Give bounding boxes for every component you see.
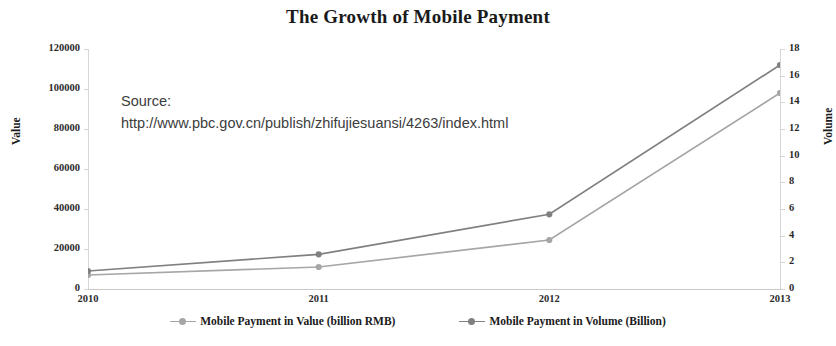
y-tick-mark-right xyxy=(781,182,785,183)
y-tick-mark-right xyxy=(781,156,785,157)
y-tick-label-right: 2 xyxy=(789,255,813,266)
y-tick-label-right: 10 xyxy=(789,149,813,160)
legend-label: Mobile Payment in Value (billion RMB) xyxy=(200,315,395,327)
y-tick-mark-right xyxy=(781,262,785,263)
y-axis-title-right: Volume xyxy=(822,108,834,145)
data-point-marker xyxy=(316,264,322,270)
y-tick-mark-left xyxy=(84,49,88,50)
y-tick-label-right: 0 xyxy=(789,282,813,293)
series-line xyxy=(88,93,780,275)
x-tick-label: 2013 xyxy=(735,293,825,304)
y-tick-mark-right xyxy=(781,209,785,210)
x-axis-line xyxy=(88,289,781,290)
y-tick-mark-left xyxy=(84,249,88,250)
data-point-marker xyxy=(546,237,552,243)
y-tick-label-right: 14 xyxy=(789,95,813,106)
y-axis-line-right xyxy=(780,49,781,290)
y-tick-mark-right xyxy=(781,236,785,237)
y-tick-mark-left xyxy=(84,209,88,210)
x-tick-label: 2012 xyxy=(504,293,594,304)
y-tick-label-left: 120000 xyxy=(0,42,80,53)
y-tick-label-left: 40000 xyxy=(0,202,80,213)
y-tick-label-left: 0 xyxy=(0,282,80,293)
y-tick-label-left: 80000 xyxy=(0,122,80,133)
y-tick-mark-right xyxy=(781,129,785,130)
y-tick-label-left: 60000 xyxy=(0,162,80,173)
legend-entry[interactable]: Mobile Payment in Value (billion RMB) xyxy=(170,315,395,327)
y-tick-label-left: 20000 xyxy=(0,242,80,253)
y-tick-mark-right xyxy=(781,289,785,290)
series-lines xyxy=(88,49,780,289)
y-tick-mark-right xyxy=(781,76,785,77)
y-tick-label-right: 4 xyxy=(789,229,813,240)
legend-label: Mobile Payment in Volume (Billion) xyxy=(489,315,665,327)
x-tick-label: 2010 xyxy=(43,293,133,304)
legend-marker-icon xyxy=(170,317,196,326)
y-tick-mark-left xyxy=(84,89,88,90)
data-point-marker xyxy=(88,268,91,274)
y-tick-mark-right xyxy=(781,102,785,103)
y-tick-label-right: 18 xyxy=(789,42,813,53)
data-point-marker xyxy=(546,211,552,217)
y-tick-mark-right xyxy=(781,49,785,50)
y-tick-label-right: 12 xyxy=(789,122,813,133)
plot-area xyxy=(88,49,780,289)
y-tick-label-right: 6 xyxy=(789,202,813,213)
data-point-marker xyxy=(316,251,322,257)
chart-container: The Growth of Mobile Payment Value Volum… xyxy=(0,0,836,346)
y-tick-mark-left xyxy=(84,129,88,130)
y-tick-mark-left xyxy=(84,289,88,290)
series-line xyxy=(88,65,780,271)
x-tick-label: 2011 xyxy=(274,293,364,304)
y-tick-label-left: 100000 xyxy=(0,82,80,93)
legend-entry[interactable]: Mobile Payment in Volume (Billion) xyxy=(459,315,665,327)
chart-title: The Growth of Mobile Payment xyxy=(0,6,836,28)
y-tick-label-right: 8 xyxy=(789,175,813,186)
y-tick-label-right: 16 xyxy=(789,69,813,80)
legend-marker-icon xyxy=(459,317,485,326)
chart-legend: Mobile Payment in Value (billion RMB)Mob… xyxy=(0,315,836,327)
y-tick-mark-left xyxy=(84,169,88,170)
